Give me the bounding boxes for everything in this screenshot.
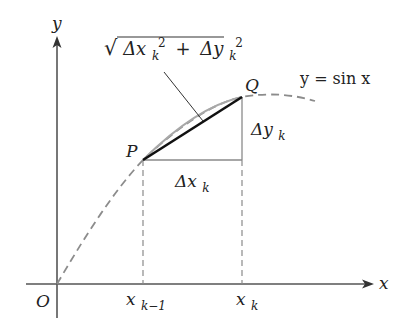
- diagram-svg: √ Δx k 2 + Δy k 2 y x O P Q y = sin x Δx…: [0, 0, 416, 333]
- arc-length-diagram: √ Δx k 2 + Δy k 2 y x O P Q y = sin x Δx…: [0, 0, 416, 333]
- curve-label: y = sin x: [299, 69, 370, 88]
- point-p-label: P: [125, 141, 138, 161]
- chord-pq: [143, 97, 242, 160]
- x-k-minus-1-label: x k−1: [126, 289, 166, 313]
- point-q-label: Q: [245, 75, 259, 95]
- x-axis-label: x: [379, 273, 389, 293]
- radical-icon: √: [104, 36, 118, 60]
- y-axis-label: y: [51, 13, 62, 33]
- origin-label: O: [36, 291, 50, 311]
- delta-x-label: Δx k: [174, 171, 210, 195]
- delta-y-label: Δy k: [250, 119, 286, 143]
- formula-leader-line: [164, 72, 203, 121]
- x-k-label: x k: [236, 289, 258, 313]
- formula: √ Δx k 2 + Δy k 2: [104, 30, 243, 64]
